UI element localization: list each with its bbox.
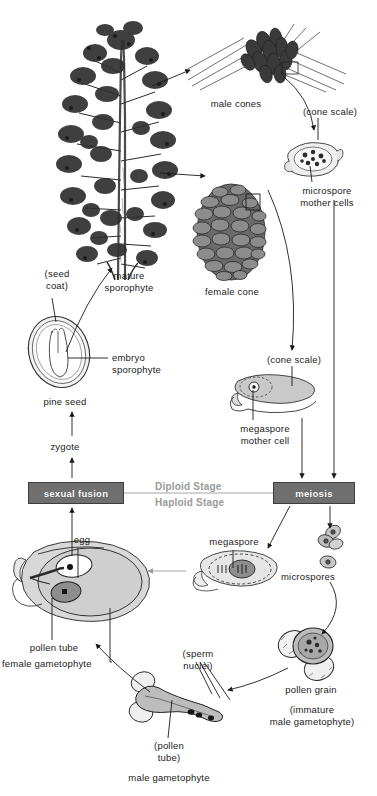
label-pollen-tube: pollen tube — [18, 642, 90, 654]
label-megaspore-mother-cell: megaspore mother cell — [222, 423, 308, 446]
label-seed-coat: (seed coat) — [32, 268, 82, 291]
meiosis-box[interactable]: meiosis — [273, 482, 355, 504]
meiosis-label: meiosis — [295, 488, 332, 499]
mature-pine-tree-illustration — [55, 18, 190, 293]
label-female-gametophyte: female gametophyte — [2, 658, 114, 670]
sexual-fusion-label: sexual fusion — [44, 488, 109, 499]
megaspore-illustration — [190, 545, 282, 597]
label-cone-scale-top: (cone scale) — [290, 106, 370, 118]
label-sperm-nuclei: (sperm nuclei) — [167, 648, 229, 671]
megaspore-mother-cell-illustration — [228, 371, 320, 417]
label-male-gametophyte: male gametophyte — [116, 772, 222, 784]
male-gametophyte-illustration — [125, 668, 235, 730]
label-male-cones: male cones — [196, 98, 276, 110]
pollen-grain-illustration — [275, 620, 347, 688]
label-mature-sporophyte: mature sporophyte — [90, 270, 168, 293]
label-microspore-mother-cells: microspore mother cells — [282, 185, 372, 208]
label-microspores: microspores — [281, 571, 365, 583]
pine-life-cycle-diagram: sexual fusion meiosis Diploid Stage Hapl… — [0, 0, 377, 796]
label-embryo-sporophyte: embryo sporophyte — [112, 352, 188, 375]
label-female-cone: female cone — [190, 286, 274, 298]
label-egg: egg — [60, 534, 104, 546]
microspore-mother-cells-illustration — [283, 139, 345, 181]
female-gametophyte-illustration — [8, 530, 158, 635]
male-cones-illustration — [186, 22, 351, 94]
pine-seed-illustration — [22, 313, 96, 391]
diploid-stage-label: Diploid Stage — [155, 481, 222, 492]
microspores-illustration — [307, 520, 351, 575]
haploid-stage-label: Haploid Stage — [155, 497, 224, 508]
label-pine-seed: pine seed — [32, 396, 98, 408]
label-pollen-grain: pollen grain — [272, 684, 350, 696]
label-immature-male-gametophyte: (immature male gametophyte) — [251, 704, 373, 727]
label-pollen-tube-paren: (pollen tube) — [140, 740, 198, 763]
label-megaspore: megaspore — [196, 536, 272, 548]
label-cone-scale-mid: (cone scale) — [254, 354, 334, 366]
female-cone-illustration — [190, 178, 272, 282]
label-zygote: zygote — [38, 441, 92, 453]
sexual-fusion-box[interactable]: sexual fusion — [28, 482, 124, 504]
